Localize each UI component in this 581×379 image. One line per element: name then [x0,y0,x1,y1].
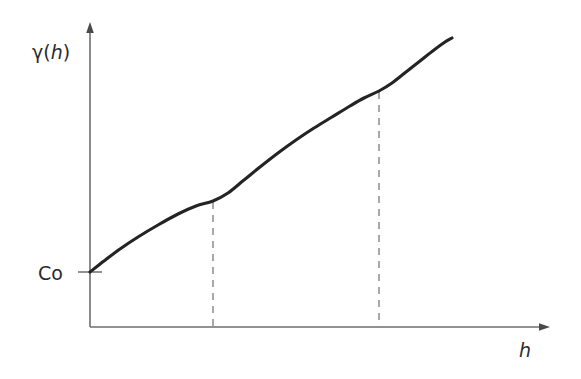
y-axis-label-text: γ( [32,41,51,63]
y-axis-arrowhead [86,22,94,33]
nugget-label: Co [38,262,63,284]
x-axis-label: h [519,339,531,361]
variogram-chart-svg: γ(h) Co h [0,0,581,379]
variogram-figure: γ(h) Co h [0,0,581,379]
y-axis-label: γ(h) [32,41,70,63]
y-axis-label-variable: h [51,41,63,63]
semivariogram-curve [90,38,452,272]
x-axis-arrowhead [539,323,550,331]
y-axis-label-close: ) [63,41,70,63]
